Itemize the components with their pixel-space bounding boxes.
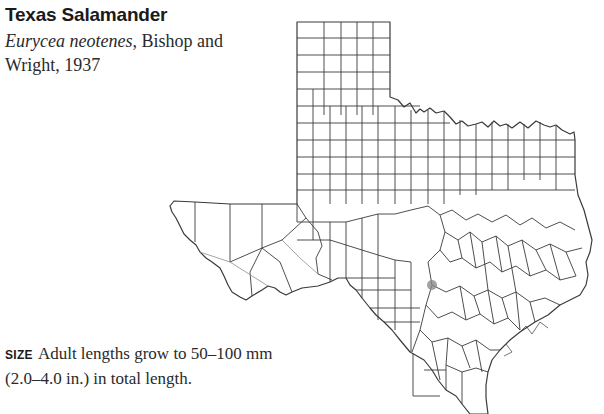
size-description: SIZEAdult lengths grow to 50–100 mm (2.0…	[5, 342, 305, 390]
size-text: Adult lengths grow to 50–100 mm (2.0–4.0…	[5, 344, 273, 388]
range-marker	[427, 280, 437, 290]
size-label: SIZE	[5, 348, 33, 362]
